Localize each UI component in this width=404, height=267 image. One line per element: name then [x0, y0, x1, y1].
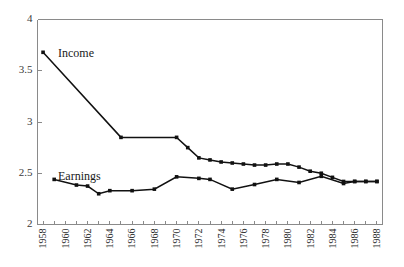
- data-point-marker: [197, 156, 201, 160]
- data-point-marker: [342, 182, 346, 186]
- x-tick-label: 1978: [260, 229, 271, 249]
- series-income: [41, 51, 378, 184]
- x-tick-label: 1958: [37, 229, 48, 249]
- data-point-marker: [375, 180, 379, 184]
- y-tick-label: 3.5: [19, 63, 33, 75]
- data-point-marker: [275, 178, 279, 182]
- x-tick-label: 1980: [282, 229, 293, 249]
- x-tick-label: 1964: [104, 229, 115, 249]
- data-point-marker: [119, 136, 123, 140]
- data-point-marker: [353, 180, 357, 184]
- data-point-marker: [253, 183, 257, 187]
- series-earnings: [52, 175, 378, 196]
- data-point-marker: [242, 162, 246, 166]
- data-point-marker: [108, 189, 112, 193]
- data-point-marker: [297, 181, 301, 185]
- x-tick-label: 1988: [371, 229, 382, 249]
- data-point-marker: [197, 177, 201, 181]
- data-point-marker: [264, 163, 268, 167]
- line-chart: 22.533.54 195819601962196419661968197019…: [0, 0, 404, 267]
- y-tick-label: 2.5: [19, 166, 33, 178]
- data-point-marker: [364, 180, 368, 184]
- series-annotation-income: Income: [58, 46, 94, 60]
- data-point-marker: [319, 175, 323, 179]
- y-axis-ticks: [38, 20, 42, 225]
- x-tick-label: 1962: [82, 229, 93, 249]
- data-point-marker: [208, 158, 212, 162]
- series-annotations: IncomeEarnings: [58, 46, 101, 183]
- x-tick-label: 1986: [349, 229, 360, 249]
- x-tick-label: 1972: [193, 229, 204, 249]
- x-tick-label: 1982: [305, 229, 316, 249]
- data-point-marker: [230, 161, 234, 165]
- data-point-marker: [230, 187, 234, 191]
- data-point-marker: [297, 165, 301, 169]
- x-tick-label: 1966: [126, 229, 137, 249]
- x-axis-labels: 1958196019621964196619681970197219741976…: [37, 228, 382, 248]
- x-tick-label: 1968: [149, 229, 160, 249]
- data-point-marker: [175, 136, 179, 140]
- data-point-marker: [86, 184, 90, 188]
- data-point-marker: [97, 192, 101, 196]
- data-point-marker: [75, 183, 79, 187]
- y-tick-label: 2: [27, 217, 33, 229]
- data-point-marker: [153, 187, 157, 191]
- x-tick-label: 1974: [216, 229, 227, 249]
- x-tick-label: 1976: [238, 228, 249, 248]
- y-axis-labels: 22.533.54: [19, 12, 33, 229]
- x-axis-ticks: [43, 221, 377, 225]
- data-point-marker: [219, 160, 223, 164]
- data-point-marker: [275, 162, 279, 166]
- data-point-marker: [130, 189, 134, 193]
- data-point-marker: [41, 51, 45, 55]
- x-tick-label: 1970: [171, 229, 182, 249]
- data-point-marker: [253, 163, 257, 167]
- y-tick-label: 3: [27, 115, 33, 127]
- chart-svg: 22.533.54 195819601962196419661968197019…: [0, 0, 404, 267]
- data-point-marker: [319, 171, 323, 175]
- series-line: [43, 52, 377, 181]
- data-point-marker: [286, 162, 290, 166]
- data-point-marker: [175, 175, 179, 179]
- series-annotation-earnings: Earnings: [58, 169, 101, 183]
- data-point-marker: [208, 178, 212, 182]
- data-point-marker: [186, 146, 190, 150]
- x-tick-label: 1984: [327, 229, 338, 249]
- series-line: [54, 176, 377, 193]
- data-point-marker: [308, 169, 312, 173]
- data-point-marker: [52, 178, 56, 182]
- x-tick-label: 1960: [60, 229, 71, 249]
- data-point-marker: [331, 176, 335, 180]
- y-tick-label: 4: [27, 12, 33, 24]
